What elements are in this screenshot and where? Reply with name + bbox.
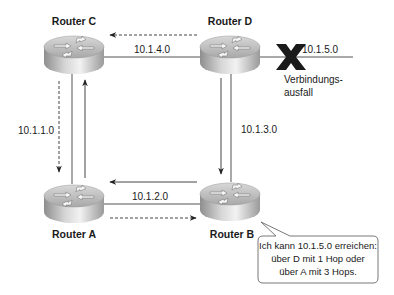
router-c-icon bbox=[44, 36, 104, 74]
network-label-a-b: 10.1.2.0 bbox=[132, 191, 169, 202]
router-d: Router D bbox=[200, 15, 260, 74]
router-b: Router B bbox=[200, 183, 260, 240]
router-d-label: Router D bbox=[208, 15, 253, 27]
failure-label-line2: ausfall bbox=[284, 87, 313, 98]
network-label-c-d: 10.1.4.0 bbox=[134, 44, 171, 55]
network-label-c-a: 10.1.1.0 bbox=[18, 125, 55, 136]
callout-line1: Ich kann 10.1.5.0 erreichen: bbox=[259, 240, 377, 251]
callout-line3: über A mit 3 Hops. bbox=[279, 266, 357, 277]
callout-bubble: Ich kann 10.1.5.0 erreichen: über D mit … bbox=[258, 222, 378, 283]
failure-label-line1: Verbindungs- bbox=[284, 74, 343, 85]
network-label-d-b: 10.1.3.0 bbox=[241, 124, 278, 135]
router-a-icon bbox=[44, 185, 104, 223]
callout-line2: über D mit 1 Hop oder bbox=[271, 253, 364, 264]
router-a: Router A bbox=[44, 185, 104, 240]
router-b-label: Router B bbox=[210, 228, 255, 240]
router-d-icon bbox=[200, 36, 260, 74]
router-c-label: Router C bbox=[52, 15, 97, 27]
router-c: Router C bbox=[44, 15, 104, 74]
router-b-icon bbox=[200, 183, 260, 221]
router-a-label: Router A bbox=[52, 228, 96, 240]
network-label-d-ext: 10.1.5.0 bbox=[302, 44, 339, 55]
network-diagram: Router C Router D Router A Router B 10.1… bbox=[0, 0, 394, 295]
